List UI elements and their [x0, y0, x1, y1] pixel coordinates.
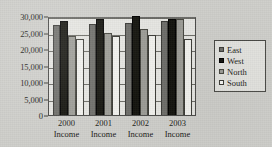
y-axis-tick-label: 15,000 [20, 62, 43, 72]
bar-east [89, 24, 97, 115]
bar-south [148, 35, 156, 115]
y-axis-tick-label: 5,000 [24, 95, 43, 105]
bar-south [76, 39, 84, 115]
y-axis-tick-label: 0 [39, 111, 43, 121]
bar-group [89, 18, 120, 115]
bar-east [53, 25, 61, 115]
chart-legend: EastWestNorthSouth [214, 40, 266, 92]
x-axis-label-line: Income [161, 129, 195, 140]
bar-group [125, 18, 156, 115]
bar-north [68, 36, 76, 115]
bar-series-container [49, 18, 195, 115]
x-axis-tick-label: 2001Income [87, 118, 121, 139]
bar-south [184, 39, 192, 115]
y-axis: 05,00010,00015,00020,00025,00030,000 [0, 17, 48, 116]
x-axis-tick-label: 2000Income [50, 118, 84, 139]
bar-group [53, 18, 84, 115]
y-axis-tick-label: 25,000 [20, 29, 43, 39]
y-axis-tick-label: 10,000 [20, 78, 43, 88]
x-axis-label-line: Income [50, 129, 84, 140]
bar-west [168, 19, 176, 115]
legend-swatch-icon [219, 58, 224, 63]
bar-east [161, 21, 169, 115]
plot-area [48, 17, 196, 116]
legend-item-west[interactable]: West [219, 55, 263, 66]
x-axis-label-line: 2001 [87, 118, 121, 129]
bar-east [125, 23, 133, 115]
x-axis-label-line: Income [87, 129, 121, 140]
x-axis-label-line: 2003 [161, 118, 195, 129]
bar-north [104, 33, 112, 116]
bar-west [96, 19, 104, 115]
legend-item-label: West [227, 56, 244, 66]
x-axis-label-line: 2002 [124, 118, 158, 129]
legend-swatch-icon [219, 80, 224, 85]
legend-item-label: South [227, 78, 247, 88]
legend-item-label: East [227, 45, 242, 55]
bar-north [176, 19, 184, 115]
x-axis-tick-label: 2003Income [161, 118, 195, 139]
legend-item-north[interactable]: North [219, 66, 263, 77]
bar-west [60, 21, 68, 115]
y-axis-tick-label: 20,000 [20, 45, 43, 55]
x-axis: 2000Income2001Income2002Income2003Income [48, 118, 196, 139]
bar-south [112, 36, 120, 115]
legend-item-label: North [227, 67, 247, 77]
legend-swatch-icon [219, 69, 224, 74]
y-axis-tick-label: 30,000 [20, 12, 43, 22]
bar-chart-figure: 05,00010,00015,00020,00025,00030,000 200… [0, 0, 272, 147]
legend-item-south[interactable]: South [219, 77, 263, 88]
legend-item-east[interactable]: East [219, 44, 263, 55]
x-axis-label-line: Income [124, 129, 158, 140]
x-axis-label-line: 2000 [50, 118, 84, 129]
bar-west [132, 16, 140, 115]
bar-north [140, 29, 148, 115]
legend-swatch-icon [219, 47, 224, 52]
bar-group [161, 18, 192, 115]
x-axis-tick-label: 2002Income [124, 118, 158, 139]
